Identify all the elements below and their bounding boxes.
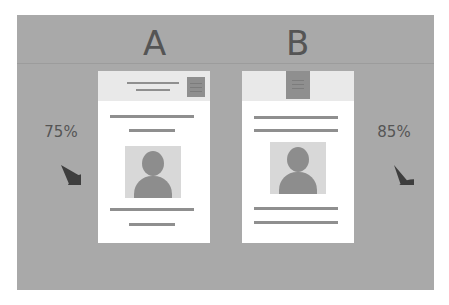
- variant-a-card: [98, 71, 210, 243]
- variant-b-percent: 85%: [364, 123, 424, 141]
- pie-chart-icon: [41, 145, 81, 185]
- card-b-header: [242, 71, 354, 101]
- person-silhouette-icon: [125, 146, 181, 198]
- menu-button-icon[interactable]: [286, 71, 310, 99]
- card-a-text-line-4: [129, 223, 175, 226]
- variant-a-label: A: [143, 26, 166, 60]
- pie-chart-icon: [374, 145, 414, 185]
- card-a-text-line-2: [129, 129, 175, 132]
- variant-b-card: [242, 71, 354, 243]
- menu-button-icon[interactable]: [187, 77, 205, 97]
- card-b-text-line-2: [254, 129, 338, 132]
- card-a-header: [98, 71, 210, 101]
- card-a-text-line-3: [110, 208, 194, 211]
- variant-a-percent: 75%: [31, 123, 91, 141]
- card-a-header-subtitle-line: [136, 89, 170, 91]
- variant-b-label: B: [286, 26, 309, 60]
- person-silhouette-icon: [270, 142, 326, 194]
- card-b-text-line-3: [254, 207, 338, 210]
- card-b-text-line-1: [254, 116, 338, 119]
- card-a-header-title-line: [127, 82, 179, 84]
- card-a-text-line-1: [110, 115, 194, 118]
- card-b-text-line-4: [254, 221, 338, 224]
- variant-a-stat: 75%: [31, 123, 91, 185]
- variant-b-stat: 85%: [364, 123, 424, 185]
- header-divider: [17, 63, 434, 64]
